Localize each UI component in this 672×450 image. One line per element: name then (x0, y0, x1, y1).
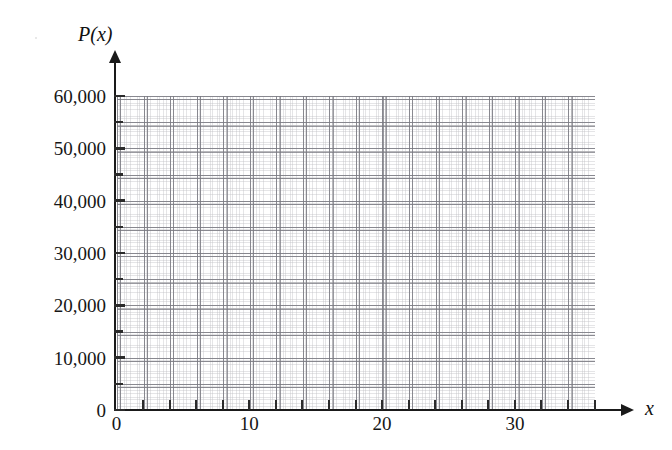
x-axis-tick (248, 400, 250, 410)
x-axis-tick (434, 400, 436, 410)
x-axis-tick (328, 400, 330, 410)
x-axis-tick (275, 400, 277, 410)
x-axis-arrowhead-icon (621, 404, 634, 416)
y-axis-tick-major (114, 356, 125, 358)
x-axis-tick (408, 400, 410, 410)
x-axis-tick (567, 400, 569, 410)
x-axis-tick (301, 400, 303, 410)
y-axis-tick-major (114, 252, 125, 254)
y-axis-tick-minor (114, 330, 123, 332)
x-axis-tick (222, 400, 224, 410)
x-axis-tick (487, 400, 489, 410)
x-axis-tick-label: 10 (214, 414, 284, 433)
x-axis-tick (355, 400, 357, 410)
y-axis-tick-label: 10,000 (0, 349, 106, 368)
x-axis-tick (514, 400, 516, 410)
scan-speck (412, 268, 414, 270)
x-axis-line (114, 409, 625, 411)
y-axis-tick-major (114, 147, 125, 149)
y-axis-tick-minor (114, 121, 123, 123)
x-axis-tick (195, 400, 197, 410)
y-axis-tick-minor (114, 226, 123, 228)
y-axis-tick-label: 50,000 (0, 139, 106, 158)
x-axis-title: x (645, 397, 654, 420)
y-axis-tick-label: 40,000 (0, 192, 106, 211)
x-axis-tick (142, 400, 144, 410)
x-axis-tick (594, 400, 596, 410)
y-axis-tick-label: 20,000 (0, 296, 106, 315)
plot-area (117, 96, 595, 410)
y-axis-arrowhead-icon (109, 50, 121, 63)
x-axis-title-text: x (645, 397, 654, 419)
grid-major (117, 96, 595, 410)
scan-speck (35, 37, 37, 39)
y-axis-tick-label: 60,000 (0, 87, 106, 106)
chart-figure: P(x) x 010,00020,00030,00040,00050,00060… (0, 0, 672, 450)
x-axis-tick (540, 400, 542, 410)
y-axis-title-text: P(x) (78, 23, 112, 45)
y-axis-title: P(x) (78, 23, 112, 46)
y-axis-tick-label: 30,000 (0, 244, 106, 263)
y-axis-tick-major (114, 304, 125, 306)
x-axis-tick-label: 0 (82, 414, 152, 433)
y-axis-tick-minor (114, 173, 123, 175)
y-axis-tick-major (114, 95, 125, 97)
x-axis-tick-label: 30 (480, 414, 550, 433)
y-axis-tick-minor (114, 278, 123, 280)
y-axis-tick-minor (114, 383, 123, 385)
x-axis-tick-label: 20 (347, 414, 417, 433)
y-axis-tick-major (114, 409, 125, 411)
y-axis-tick-major (114, 199, 125, 201)
x-axis-tick (169, 400, 171, 410)
x-axis-tick (461, 400, 463, 410)
x-axis-tick (381, 400, 383, 410)
